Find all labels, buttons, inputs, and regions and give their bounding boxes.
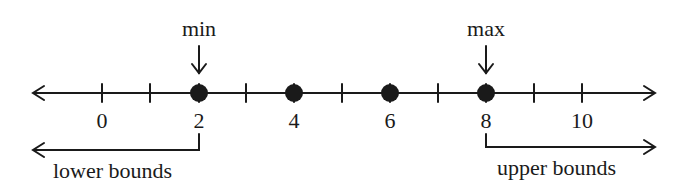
upper-bounds-label: upper bounds bbox=[497, 155, 616, 180]
tick-label-6: 6 bbox=[385, 108, 396, 133]
point-2 bbox=[190, 84, 208, 102]
tick-label-10: 10 bbox=[571, 108, 593, 133]
tick-label-2: 2 bbox=[194, 108, 205, 133]
lower-bounds-label: lower bounds bbox=[53, 158, 172, 183]
point-8 bbox=[477, 84, 495, 102]
point-4 bbox=[285, 84, 303, 102]
lower-bounds-bracket bbox=[34, 134, 199, 150]
number-line-diagram: min max 0 2 4 6 8 10 lower bounds upper … bbox=[0, 0, 681, 195]
point-6 bbox=[381, 84, 399, 102]
max-label: max bbox=[467, 16, 505, 41]
min-label: min bbox=[182, 16, 216, 41]
tick-label-8: 8 bbox=[481, 108, 492, 133]
upper-bounds-bracket bbox=[486, 134, 654, 147]
tick-label-4: 4 bbox=[289, 108, 300, 133]
tick-label-0: 0 bbox=[97, 108, 108, 133]
